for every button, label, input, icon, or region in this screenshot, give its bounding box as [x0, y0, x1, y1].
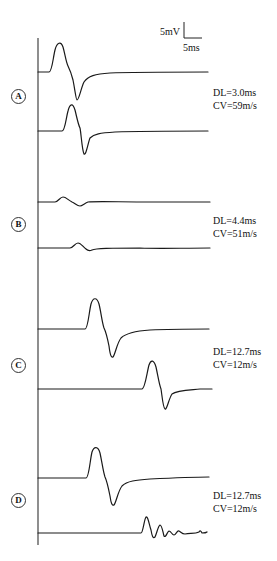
panel-c-dl: DL=12.7ms	[213, 345, 261, 358]
panel-label-c: C	[11, 358, 26, 373]
panel-b-cv: CV=51m/s	[213, 227, 257, 240]
trace-b-proximal	[38, 197, 210, 206]
panel-label-d: D	[11, 493, 26, 508]
scale-time-label: 5ms	[183, 41, 200, 54]
panel-a-cv: CV=59m/s	[213, 99, 257, 112]
trace-c-proximal	[38, 299, 209, 357]
figure-caption-cropped	[0, 552, 277, 561]
trace-d-proximal	[38, 448, 209, 506]
panel-a-dl: DL=3.0ms	[213, 86, 256, 99]
trace-c-distal	[38, 361, 212, 409]
panel-d-cv: CV=12m/s	[213, 502, 257, 515]
panel-b-dl: DL=4.4ms	[213, 214, 256, 227]
panel-label-a: A	[11, 89, 26, 104]
waveform-chart	[0, 0, 277, 561]
trace-d-distal	[38, 517, 207, 538]
panel-c-cv: CV=12m/s	[213, 358, 257, 371]
scale-voltage-label: 5mV	[160, 25, 180, 38]
trace-a-distal	[38, 105, 208, 154]
scale-bar	[184, 22, 202, 38]
panel-label-b: B	[11, 217, 26, 232]
trace-b-distal	[38, 243, 210, 251]
panel-d-dl: DL=12.7ms	[213, 489, 261, 502]
